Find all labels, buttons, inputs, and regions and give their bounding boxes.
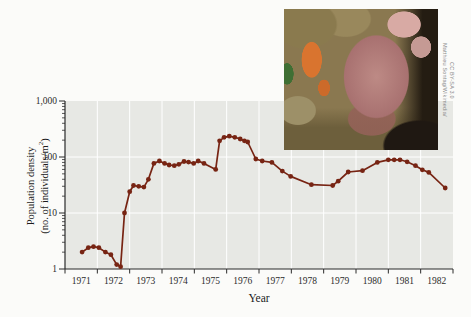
y-axis-label-line1: Population density bbox=[24, 86, 37, 286]
data-point bbox=[186, 160, 191, 165]
data-point bbox=[413, 163, 418, 168]
data-point bbox=[202, 161, 207, 166]
x-tick-label: 1978 bbox=[298, 276, 317, 286]
data-point bbox=[420, 167, 425, 172]
data-point bbox=[280, 169, 285, 174]
x-tick-label: 1973 bbox=[136, 276, 155, 286]
inset-photo-reef-organism bbox=[284, 9, 438, 150]
x-tick-label: 1976 bbox=[233, 276, 252, 286]
data-point bbox=[360, 168, 365, 173]
data-point bbox=[336, 179, 341, 184]
data-point bbox=[288, 174, 293, 179]
x-tick-label: 1972 bbox=[104, 276, 123, 286]
data-point bbox=[232, 135, 237, 140]
data-point bbox=[392, 157, 397, 162]
data-point bbox=[142, 185, 147, 190]
data-point bbox=[309, 182, 314, 187]
data-point bbox=[405, 159, 410, 164]
data-point bbox=[167, 163, 172, 168]
data-point bbox=[191, 161, 196, 166]
photo-credit-author: Matthieu Sontag/Wikimedia/ bbox=[440, 10, 448, 150]
x-tick-label: 1982 bbox=[427, 276, 446, 286]
data-point bbox=[172, 163, 177, 168]
data-point bbox=[131, 183, 136, 188]
data-point bbox=[260, 159, 265, 164]
data-point bbox=[97, 245, 102, 250]
data-point bbox=[103, 250, 108, 255]
x-tick-label: 1977 bbox=[266, 276, 285, 286]
data-point bbox=[253, 157, 258, 162]
data-point bbox=[217, 138, 222, 143]
data-point bbox=[346, 170, 351, 175]
data-point bbox=[245, 140, 250, 145]
data-point bbox=[330, 183, 335, 188]
data-point bbox=[222, 135, 227, 140]
data-point bbox=[386, 157, 391, 162]
photo-credit: Matthieu Sontag/Wikimedia/ CC BY-SA 3.0 bbox=[440, 10, 455, 150]
data-point bbox=[157, 159, 162, 164]
data-point bbox=[398, 157, 403, 162]
x-tick-label: 1981 bbox=[395, 276, 414, 286]
x-tick-label: 1979 bbox=[330, 276, 349, 286]
data-point bbox=[127, 189, 132, 194]
data-point bbox=[86, 245, 91, 250]
data-point bbox=[91, 244, 96, 249]
x-tick-label: 1974 bbox=[169, 276, 188, 286]
data-point bbox=[196, 159, 201, 164]
data-point bbox=[182, 159, 187, 164]
data-point bbox=[109, 252, 114, 257]
data-point bbox=[122, 211, 127, 216]
data-point bbox=[118, 264, 123, 269]
data-point bbox=[426, 170, 431, 175]
data-point bbox=[176, 162, 181, 167]
data-point bbox=[146, 177, 151, 182]
y-axis-label: Population density (no. of individuals/m… bbox=[24, 86, 54, 286]
data-point bbox=[227, 134, 232, 139]
x-axis-label: Year bbox=[65, 292, 453, 304]
photo-credit-license: CC BY-SA 3.0 bbox=[448, 10, 456, 150]
data-point bbox=[238, 137, 243, 142]
y-axis-label-line2: (no. of individuals/m2) bbox=[37, 86, 51, 286]
data-point bbox=[270, 160, 275, 165]
data-point bbox=[80, 250, 85, 255]
data-point bbox=[152, 161, 157, 166]
x-tick-label: 1975 bbox=[201, 276, 220, 286]
x-tick-label: 1980 bbox=[363, 276, 382, 286]
x-tick-label: 1971 bbox=[72, 276, 91, 286]
data-point bbox=[375, 160, 380, 165]
data-point bbox=[213, 167, 218, 172]
data-point bbox=[443, 186, 448, 191]
figure: 1101001,00019711972197319741975197619771… bbox=[0, 0, 471, 317]
data-point bbox=[162, 161, 167, 166]
data-point bbox=[136, 184, 141, 189]
